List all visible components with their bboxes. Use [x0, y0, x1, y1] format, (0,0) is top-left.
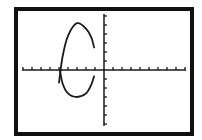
calculator-graph-screen	[0, 0, 202, 140]
